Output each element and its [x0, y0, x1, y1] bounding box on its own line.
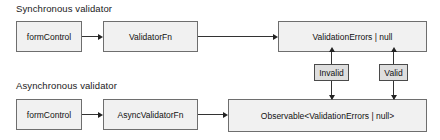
edge-async-formcontrol-to-validatorfn	[82, 114, 98, 115]
edge-async-validatorfn-to-result	[198, 114, 223, 115]
node-async-result: Observable<ValidationErrors | null>	[228, 99, 427, 132]
tag-valid: Valid	[379, 64, 408, 81]
arrowhead-invalid-from-observable	[329, 95, 335, 100]
validator-flow-diagram: Synchronous validator formControl Valida…	[0, 0, 440, 140]
node-sync-form-control: formControl	[16, 21, 82, 52]
node-sync-result: ValidationErrors | null	[278, 21, 427, 52]
edge-sync-validatorfn-to-result	[198, 36, 273, 37]
section-title-asynchronous: Asynchronous validator	[16, 80, 117, 92]
edge-valid-upper	[393, 52, 394, 64]
arrowhead-sync-result-in	[273, 34, 278, 40]
arrowhead-valid-into-result	[391, 47, 397, 52]
arrowhead-invalid-into-result	[329, 47, 335, 52]
arrowhead-async-result-in	[223, 112, 228, 118]
node-sync-validator-fn: ValidatorFn	[103, 21, 198, 52]
node-async-form-control: formControl	[16, 99, 82, 130]
node-async-validator-fn: AsyncValidatorFn	[103, 99, 198, 130]
arrowhead-async-validatorfn-in	[98, 112, 103, 118]
arrowhead-sync-validatorfn-in	[98, 34, 103, 40]
edge-invalid-upper	[331, 52, 332, 64]
tag-invalid: Invalid	[314, 64, 349, 81]
edge-sync-formcontrol-to-validatorfn	[82, 36, 98, 37]
section-title-synchronous: Synchronous validator	[16, 3, 112, 15]
arrowhead-valid-from-observable	[391, 95, 397, 100]
